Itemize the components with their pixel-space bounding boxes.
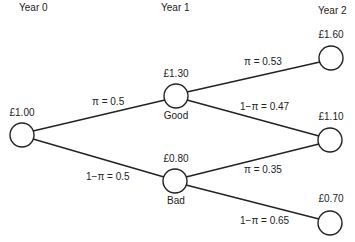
node-root (10, 123, 34, 147)
prob-good-down: 1−π = 0.47 (240, 101, 289, 112)
value-year2-top: £1.60 (318, 29, 343, 40)
node-year2-mid (318, 128, 342, 152)
year-1-label: Year 1 (161, 2, 190, 13)
value-root: £1.00 (9, 107, 34, 118)
node-year2-bottom (318, 211, 342, 235)
prob-good-up: π = 0.53 (244, 56, 282, 67)
state-good: Good (164, 110, 188, 121)
value-good: £1.30 (163, 68, 188, 79)
edge-bad-down (186, 185, 319, 219)
year-2-label: Year 2 (318, 5, 347, 16)
value-year2-mid: £1.10 (318, 111, 343, 122)
node-bad (163, 169, 187, 193)
prob-root-good: π = 0.5 (92, 96, 124, 107)
state-bad: Bad (167, 195, 185, 206)
node-year2-top (319, 46, 343, 70)
value-bad: £0.80 (163, 153, 188, 164)
year-0-label: Year 0 (19, 2, 48, 13)
prob-bad-up: π = 0.35 (244, 164, 282, 175)
node-good (164, 84, 188, 108)
prob-root-bad: 1−π = 0.5 (86, 171, 130, 182)
prob-bad-down: 1−π = 0.65 (240, 215, 289, 226)
value-year2-bottom: £0.70 (318, 193, 343, 204)
